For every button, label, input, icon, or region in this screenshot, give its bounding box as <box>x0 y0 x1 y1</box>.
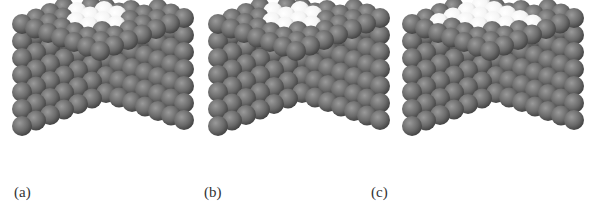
atom <box>90 41 110 61</box>
atom <box>370 110 390 130</box>
panel-label-b: (b) <box>204 184 222 201</box>
atom <box>208 116 228 136</box>
panel-a: (a) <box>0 0 196 213</box>
panel-c: (c) <box>390 0 586 213</box>
atom <box>174 110 194 130</box>
atom <box>480 41 500 61</box>
atom-cluster-b <box>196 0 392 213</box>
atom <box>286 41 306 61</box>
atom <box>564 110 584 130</box>
atom-cluster-c <box>390 0 586 213</box>
panel-label-a: (a) <box>14 184 31 201</box>
atom-cluster-a <box>0 0 196 213</box>
panel-label-c: (c) <box>371 184 388 201</box>
panel-b: (b) <box>196 0 392 213</box>
atom <box>402 116 422 136</box>
atom <box>12 116 32 136</box>
